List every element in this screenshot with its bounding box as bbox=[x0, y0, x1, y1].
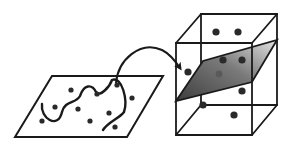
data-point-dot bbox=[199, 101, 206, 108]
data-point-dot bbox=[75, 106, 80, 111]
cube-edge bbox=[252, 14, 277, 43]
diagram-canvas bbox=[0, 0, 292, 148]
data-point-dot bbox=[212, 28, 219, 35]
kernel-mapping-diagram bbox=[0, 0, 292, 148]
data-point-dot bbox=[219, 56, 226, 63]
data-point-dot bbox=[234, 28, 241, 35]
feature-points-on-plane bbox=[216, 71, 223, 78]
data-point-dot bbox=[68, 87, 73, 92]
feature-space-cube bbox=[176, 14, 277, 135]
data-point-dot bbox=[39, 118, 44, 123]
data-point-dot bbox=[184, 68, 191, 75]
cube-edge bbox=[252, 105, 277, 135]
data-point-dot bbox=[230, 111, 237, 118]
data-point-dot bbox=[238, 87, 245, 94]
mapping-arrow bbox=[116, 47, 180, 83]
data-point-dot bbox=[112, 124, 117, 129]
cube-edge bbox=[176, 14, 201, 43]
data-point-dot bbox=[52, 104, 57, 109]
input-space-plane bbox=[15, 76, 163, 137]
data-point-dot bbox=[238, 56, 245, 63]
cube-edge bbox=[176, 105, 201, 135]
data-point-dot bbox=[87, 118, 92, 123]
data-point-dot bbox=[114, 82, 119, 87]
data-point-dot bbox=[94, 91, 99, 96]
input-space bbox=[15, 76, 163, 137]
data-point-dot bbox=[216, 71, 223, 78]
data-point-dot bbox=[106, 110, 111, 115]
data-point-dot bbox=[129, 95, 134, 100]
input-data-points bbox=[39, 82, 134, 129]
